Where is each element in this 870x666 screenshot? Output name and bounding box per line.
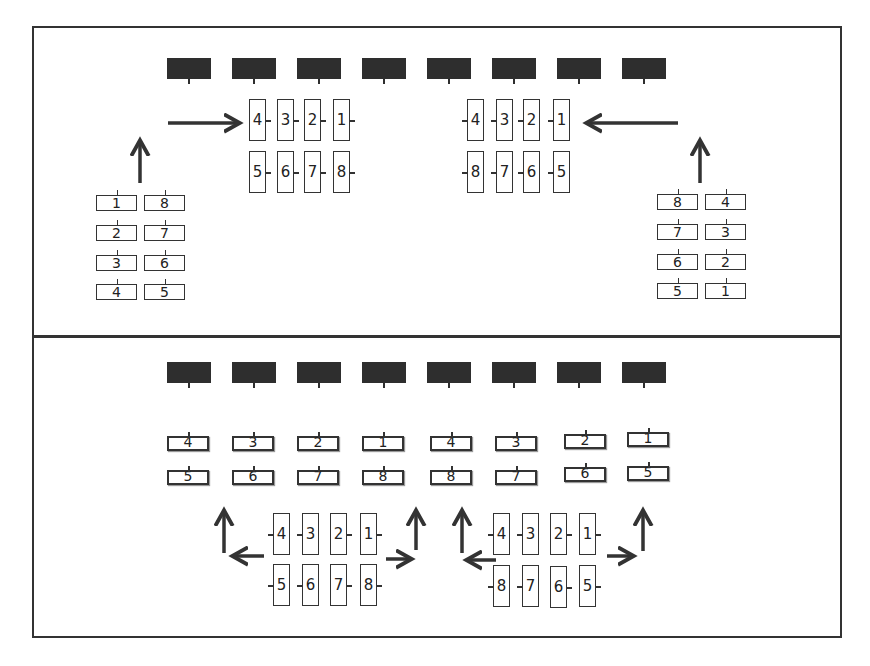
arrows-layer bbox=[0, 0, 870, 666]
